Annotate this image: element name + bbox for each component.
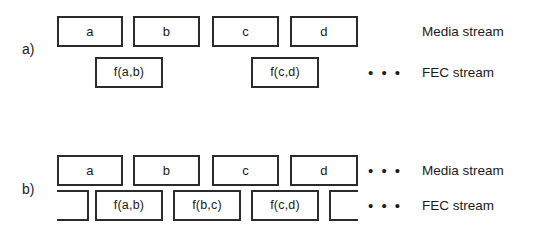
panel-b-media-row: dcba • • • Media stream xyxy=(0,155,557,186)
panel-b-fec-stream-label: FEC stream xyxy=(422,190,494,221)
panel-a-fec-ellipsis: • • • xyxy=(368,57,402,88)
packet-box-b-fec-2: f(b,c) xyxy=(173,190,241,221)
panel-b-media-stream-label: Media stream xyxy=(422,155,504,186)
packet-box-b-fec-1: f(a,b) xyxy=(95,190,163,221)
fec-stream-diagram: a) dcba Media stream f(c,d)f(a,b) • • • … xyxy=(0,0,557,235)
panel-b-fec-ellipsis: • • • xyxy=(368,190,402,221)
packet-box-a-fec-1: f(c,d) xyxy=(251,57,319,88)
packet-box-b-media-3: d xyxy=(290,155,358,186)
packet-box-b-media-1: b xyxy=(133,155,200,186)
packet-box-a-media-1: b xyxy=(133,16,200,47)
panel-a: a) dcba Media stream f(c,d)f(a,b) • • • … xyxy=(0,0,557,118)
packet-box-a-fec-0: f(a,b) xyxy=(95,57,163,88)
packet-box-a-media-3: d xyxy=(290,16,358,47)
packet-box-b-fec-0 xyxy=(57,190,89,221)
panel-a-media-stream-label: Media stream xyxy=(422,16,504,47)
packet-box-b-fec-4 xyxy=(329,190,358,221)
packet-box-b-media-0: a xyxy=(57,155,123,186)
panel-a-media-row: dcba Media stream xyxy=(0,16,557,47)
panel-b: b) dcba • • • Media stream f(c,d)f(b,c)f… xyxy=(0,140,557,235)
packet-box-b-media-2: c xyxy=(212,155,279,186)
panel-b-media-ellipsis: • • • xyxy=(368,155,402,186)
panel-a-fec-row: f(c,d)f(a,b) • • • FEC stream xyxy=(0,57,557,88)
packet-box-a-media-0: a xyxy=(57,16,123,47)
packet-box-a-media-2: c xyxy=(212,16,279,47)
packet-box-b-fec-3: f(c,d) xyxy=(251,190,319,221)
panel-a-fec-stream-label: FEC stream xyxy=(422,57,494,88)
panel-b-fec-row: f(c,d)f(b,c)f(a,b) • • • FEC stream xyxy=(0,190,557,221)
